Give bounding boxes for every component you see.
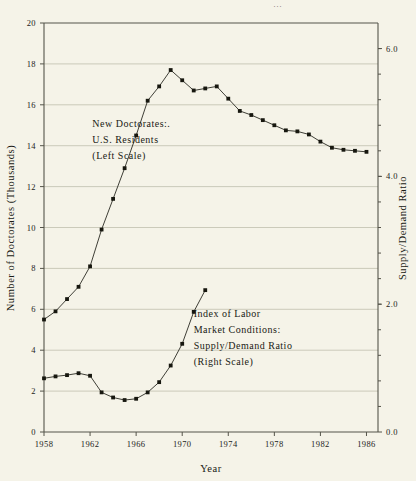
data-point-marker (261, 118, 265, 122)
data-point-marker (42, 376, 46, 380)
series-new-doctorates (42, 68, 368, 321)
data-point-marker (330, 146, 334, 150)
x-tick-label: 1970 (173, 439, 192, 449)
annotation-supply-demand-line: Supply/Demand Ratio (194, 340, 293, 351)
data-point-marker (169, 68, 173, 72)
data-point-marker (77, 371, 81, 375)
chart-annotations: New Doctorates:.U.S. Residents(Left Scal… (92, 118, 292, 368)
data-point-marker (169, 364, 173, 368)
chart-figure: ... 02468101214161820 0.02.04.06.0 19581… (0, 0, 416, 481)
data-point-marker (284, 128, 288, 132)
data-point-marker (295, 129, 299, 133)
x-tick-label: 1978 (265, 439, 284, 449)
data-point-marker (238, 109, 242, 113)
y2-tick-label: 2.0 (386, 299, 398, 309)
y-axis-left-title: Number of Doctorates (Thousands) (5, 145, 17, 312)
series-supply-demand-ratio (42, 288, 207, 402)
data-point-marker (157, 85, 161, 89)
y-axis-right-ticks: 0.02.04.06.0 (378, 44, 398, 437)
y-axis-left-ticks: 02468101214161820 (27, 18, 44, 437)
series-polyline (44, 70, 366, 319)
data-point-marker (54, 309, 58, 313)
x-tick-label: 1982 (311, 439, 330, 449)
data-point-marker (88, 374, 92, 378)
x-tick-label: 1958 (35, 439, 54, 449)
chart-svg: ... 02468101214161820 0.02.04.06.0 19581… (0, 0, 416, 481)
annotation-supply-demand-line: Market Conditions: (194, 324, 281, 335)
y-tick-label: 8 (31, 263, 36, 273)
y-tick-label: 20 (27, 18, 36, 28)
y-tick-label: 16 (27, 100, 36, 110)
annotation-doctorates-line: U.S. Residents (92, 134, 158, 145)
data-point-marker (123, 398, 127, 402)
data-point-marker (365, 150, 369, 154)
x-tick-label: 1962 (81, 439, 100, 449)
x-tick-label: 1974 (219, 439, 238, 449)
data-point-marker (65, 373, 69, 377)
data-point-marker (353, 149, 357, 153)
annotation-supply-demand-line: (Right Scale) (194, 356, 254, 368)
x-axis-title: Year (200, 463, 222, 474)
data-point-marker (54, 375, 58, 379)
data-point-marker (342, 148, 346, 152)
y2-tick-label: 6.0 (386, 44, 398, 54)
y-tick-label: 4 (31, 345, 36, 355)
data-point-marker (249, 113, 253, 117)
data-point-marker (203, 87, 207, 91)
annotation-doctorates-line: (Left Scale) (92, 150, 145, 162)
data-point-marker (215, 85, 219, 89)
data-point-marker (42, 318, 46, 322)
data-point-marker (146, 99, 150, 103)
annotation-doctorates-line: New Doctorates:. (92, 118, 170, 129)
data-point-marker (65, 297, 69, 301)
data-point-marker (180, 342, 184, 346)
data-point-marker (100, 390, 104, 394)
y-tick-label: 10 (27, 223, 36, 233)
data-point-marker (100, 228, 104, 232)
data-point-marker (134, 397, 138, 401)
data-point-marker (180, 78, 184, 82)
top-cropped-text: ... (274, 0, 283, 9)
y-tick-label: 14 (27, 141, 37, 151)
y-tick-label: 2 (31, 386, 36, 396)
y-tick-label: 0 (31, 427, 36, 437)
data-point-marker (307, 133, 311, 137)
y-tick-label: 12 (27, 182, 36, 192)
data-point-marker (77, 285, 81, 289)
x-tick-label: 1986 (357, 439, 376, 449)
data-point-marker (111, 396, 115, 400)
data-point-marker (111, 197, 115, 201)
data-point-marker (88, 264, 92, 268)
data-point-marker (192, 89, 196, 93)
x-axis-ticks: 19581962196619701974197819821986 (35, 432, 376, 449)
data-point-marker (146, 390, 150, 394)
annotation-supply-demand-line: Index of Labor (194, 308, 261, 319)
x-tick-label: 1966 (127, 439, 146, 449)
data-point-marker (319, 140, 323, 144)
y-axis-right-title: Supply/Demand Ratio (397, 176, 408, 280)
data-point-marker (272, 123, 276, 127)
data-point-marker (203, 288, 207, 292)
y-tick-label: 6 (31, 304, 36, 314)
y2-tick-label: 0.0 (386, 427, 398, 437)
data-point-marker (226, 97, 230, 101)
data-point-marker (157, 380, 161, 384)
y-tick-label: 18 (27, 59, 36, 69)
data-point-marker (123, 166, 127, 170)
